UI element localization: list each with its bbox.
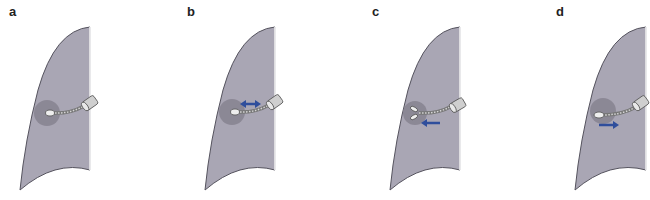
forceps-tip	[594, 112, 604, 118]
panel-c: c	[360, 0, 520, 200]
panel-a: a	[0, 0, 160, 200]
lung-illustration-b	[180, 0, 340, 200]
lung-illustration-a	[0, 0, 160, 200]
lesion	[590, 98, 616, 124]
lung-illustration-c	[360, 0, 520, 200]
lung-illustration-d	[520, 0, 650, 200]
forceps-tip	[46, 110, 55, 116]
panel-b: b	[180, 0, 340, 200]
panel-d: d	[520, 0, 650, 200]
forceps-tip	[231, 109, 240, 115]
